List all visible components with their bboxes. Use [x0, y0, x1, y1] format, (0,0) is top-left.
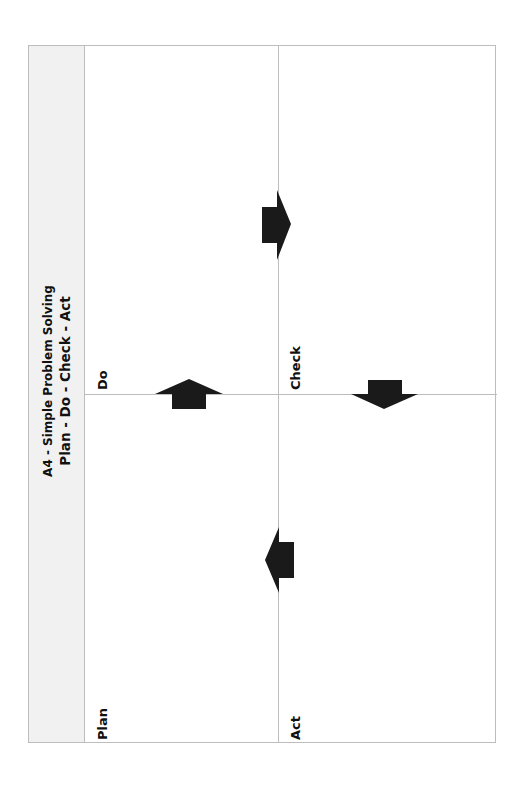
arrow-up-icon	[155, 379, 223, 409]
arrow-down-icon	[351, 380, 418, 409]
arrow-right-icon	[262, 190, 291, 260]
cycle-arrows	[0, 0, 524, 785]
arrow-left-icon	[265, 527, 294, 593]
